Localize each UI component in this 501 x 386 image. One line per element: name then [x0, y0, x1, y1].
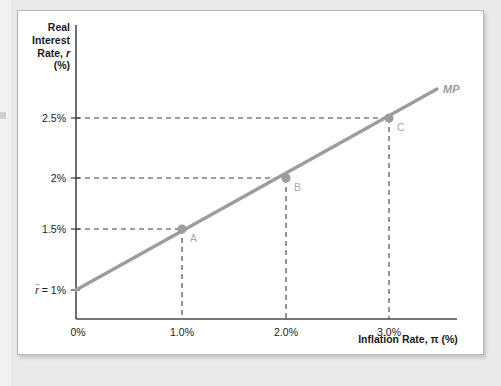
page-edge-background	[0, 0, 11, 386]
y-axis-title-line-3: Rate, r	[18, 47, 70, 60]
data-point-label-a: A	[190, 232, 197, 244]
mp-curve-label: MP	[443, 83, 460, 95]
x-axis-title: Inflation Rate, π (%)	[338, 333, 478, 345]
monetary-policy-curve-chart	[18, 11, 485, 356]
data-point-c	[384, 113, 393, 122]
data-point-label-c: C	[397, 121, 405, 133]
data-point-label-b: B	[294, 181, 301, 193]
figure-panel: Real Interest Rate, r (%) 2.5% 2% 1.5% r…	[17, 10, 484, 355]
y-tick-label-1p5: 1.5%	[14, 223, 66, 235]
data-point-a	[177, 224, 186, 233]
y-axis-title-line-4: (%)	[18, 59, 70, 72]
chart-plot-area: Real Interest Rate, r (%) 2.5% 2% 1.5% r…	[18, 11, 485, 356]
x-tick-label-1p0: 1.0%	[162, 326, 202, 338]
y-axis-title-line-1: Real	[18, 21, 70, 34]
y-intercept-label-rbar: r̄ = 1%	[12, 284, 66, 296]
y-axis-title-variable-r: r	[66, 47, 70, 59]
page-edge-mark	[0, 112, 6, 119]
mp-curve-line	[76, 89, 437, 290]
y-axis-title-line-2: Interest	[18, 34, 70, 47]
y-tick-label-2p5: 2.5%	[14, 112, 66, 124]
rbar-value: = 1%	[39, 284, 66, 296]
x-tick-label-0: 0%	[58, 326, 98, 338]
y-axis-title-line-3-text: Rate,	[37, 47, 66, 59]
y-axis-title: Real Interest Rate, r (%)	[18, 21, 70, 72]
y-tick-label-2p0: 2%	[14, 172, 66, 184]
x-tick-label-2p0: 2.0%	[266, 326, 306, 338]
data-point-b	[281, 173, 290, 182]
